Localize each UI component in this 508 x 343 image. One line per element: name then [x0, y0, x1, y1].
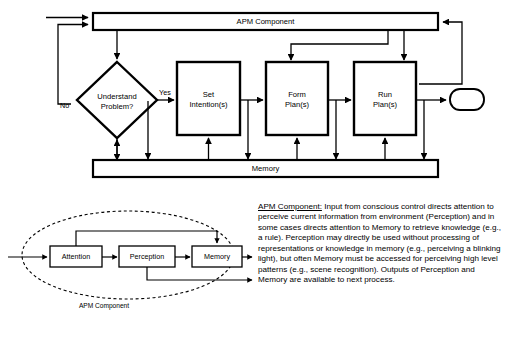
run-plans-to-apm-arrow: [419, 22, 462, 84]
process-box-form-plans: Form Plan(s): [266, 62, 328, 135]
detail-box-memory: Memory: [192, 246, 242, 267]
run-plans-label-line1: Run: [378, 90, 392, 99]
branch-label-yes: Yes: [159, 88, 171, 97]
detail-caption-label: APM Component: [79, 302, 129, 310]
no-branch-feedback-path: [58, 25, 88, 105]
decision-understand-problem: Understand Problem?: [77, 62, 157, 138]
detail-attention-to-memory-top-arrow: [76, 231, 217, 246]
form-plans-label-line2: Plan(s): [285, 100, 310, 109]
memory-bar: Memory: [93, 160, 438, 177]
process-box-set-intentions: Set Intention(s): [177, 62, 240, 135]
terminal-node: [450, 89, 484, 110]
branch-label-no: No: [60, 101, 69, 110]
flow-diagram: APM Component Understand Pr: [0, 0, 508, 343]
detail-perception-output-arrow: [147, 267, 252, 280]
note-heading: APM Component:: [258, 202, 322, 211]
top-apm-component-bar: APM Component: [93, 13, 438, 30]
detail-perception-label: Perception: [130, 252, 164, 261]
process-box-run-plans: Run Plan(s): [354, 62, 416, 135]
set-intentions-label-line1: Set: [203, 90, 215, 99]
figure-root: APM Component Understand Pr: [0, 0, 508, 343]
apm-to-form-plans-arrow: [291, 30, 388, 60]
detail-box-attention: Attention: [50, 246, 102, 267]
note-body: Input from conscious control directs att…: [258, 202, 501, 284]
apm-component-note: APM Component: Input from conscious cont…: [258, 202, 504, 286]
memory-bar-label: Memory: [252, 164, 280, 173]
set-intentions-label-line2: Intention(s): [190, 100, 228, 109]
decision-label-line1: Understand: [97, 92, 136, 101]
decision-label-line2: Problem?: [101, 102, 134, 111]
run-plans-label-line2: Plan(s): [373, 100, 398, 109]
detail-box-perception: Perception: [119, 246, 175, 267]
detail-memory-label: Memory: [204, 252, 230, 261]
top-apm-component-bar-label: APM Component: [237, 17, 296, 26]
form-plans-label-line1: Form: [288, 90, 306, 99]
detail-attention-label: Attention: [62, 252, 90, 261]
